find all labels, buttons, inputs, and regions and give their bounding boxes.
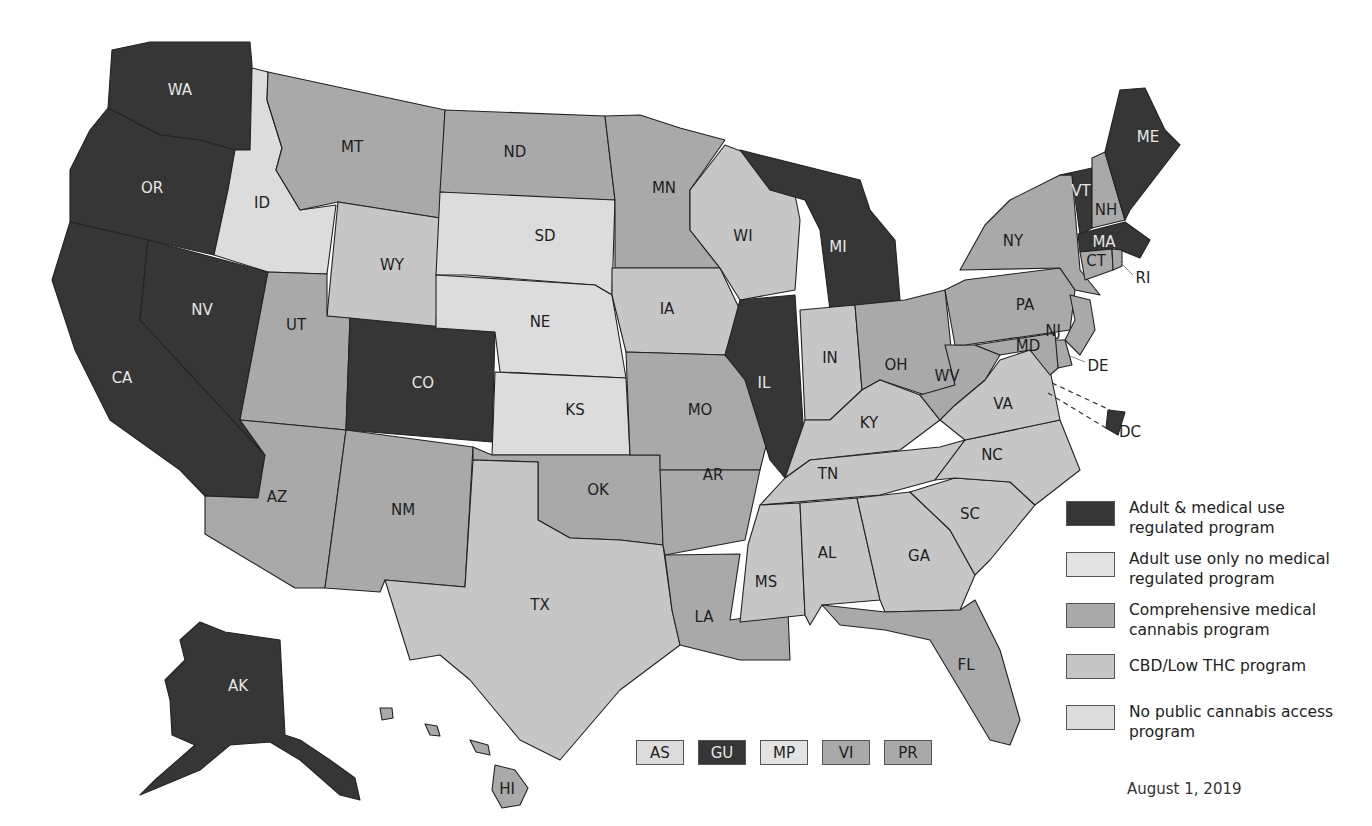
state-label-AR: AR: [703, 466, 724, 484]
legend-label: CBD/Low THC program: [1129, 651, 1339, 681]
legend-label: Adult & medical use regulated program: [1129, 498, 1339, 538]
territory-label: AS: [650, 744, 670, 762]
state-label-MS: MS: [755, 573, 777, 591]
hi-island: [425, 724, 440, 736]
legend-swatch: [1066, 654, 1115, 679]
legend-item-adult-medical: Adult & medical use regulated program: [1066, 498, 1366, 542]
state-KS[interactable]: [492, 372, 630, 455]
legend: Adult & medical use regulated program Ad…: [1066, 498, 1366, 753]
state-label-MO: MO: [688, 401, 713, 419]
territory-VI[interactable]: VI: [822, 740, 870, 765]
state-label-AZ: AZ: [267, 488, 288, 506]
dc-callout-line: [1052, 383, 1110, 410]
hi-island: [470, 740, 490, 755]
state-label-NE: NE: [530, 313, 551, 331]
state-RI[interactable]: [1112, 249, 1122, 270]
state-FL[interactable]: [822, 600, 1020, 745]
territory-PR[interactable]: PR: [884, 740, 932, 765]
state-label-IL: IL: [758, 374, 771, 392]
state-label-WA: WA: [168, 81, 193, 99]
territory-GU[interactable]: GU: [698, 740, 746, 765]
state-label-ID: ID: [254, 194, 270, 212]
territory-label: VI: [839, 744, 854, 762]
state-label-HI: HI: [499, 780, 515, 798]
state-label-NV: NV: [191, 301, 213, 319]
legend-item-comprehensive-medical: Comprehensive medical cannabis program: [1066, 600, 1366, 644]
legend-label: Comprehensive medical cannabis program: [1129, 600, 1339, 640]
state-label-VA: VA: [993, 395, 1013, 413]
state-label-ME: ME: [1137, 128, 1159, 146]
state-label-KY: KY: [860, 414, 879, 432]
state-label-MT: MT: [341, 138, 364, 156]
state-label-PA: PA: [1016, 296, 1035, 314]
de-callout-line: [1070, 356, 1085, 362]
state-label-UT: UT: [286, 316, 307, 334]
state-label-NM: NM: [391, 501, 415, 519]
state-label-SC: SC: [960, 505, 980, 523]
state-label-AK: AK: [228, 677, 249, 695]
state-label-ND: ND: [504, 143, 527, 161]
legend-item-adult-only: Adult use only no medical regulated prog…: [1066, 549, 1366, 593]
state-label-NC: NC: [981, 446, 1003, 464]
state-label-WI: WI: [733, 227, 752, 245]
territory-label: PR: [898, 744, 917, 762]
legend-swatch: [1066, 705, 1115, 730]
state-label-MI: MI: [829, 238, 846, 256]
territory-boxes: AS GU MP VI PR: [636, 740, 932, 765]
state-label-CA: CA: [112, 369, 133, 387]
state-label-MA: MA: [1092, 233, 1116, 251]
legend-swatch: [1066, 603, 1115, 628]
legend-swatch: [1066, 501, 1115, 526]
state-label-KS: KS: [565, 401, 584, 419]
map-date: August 1, 2019: [1127, 780, 1242, 798]
state-label-OK: OK: [587, 481, 610, 499]
territory-AS[interactable]: AS: [636, 740, 684, 765]
state-label-WY: WY: [380, 256, 405, 274]
state-label-TX: TX: [529, 596, 549, 614]
state-label-TN: TN: [817, 465, 838, 483]
state-label-IA: IA: [660, 300, 675, 318]
legend-label: No public cannabis access program: [1129, 702, 1339, 742]
state-label-NJ: NJ: [1045, 322, 1061, 340]
state-label-CT: CT: [1086, 252, 1106, 270]
state-ND[interactable]: [440, 110, 615, 200]
state-label-VT: VT: [1071, 182, 1091, 200]
legend-swatch: [1066, 552, 1115, 577]
state-label-GA: GA: [908, 547, 931, 565]
state-label-MD: MD: [1016, 337, 1041, 355]
state-label-OH: OH: [884, 356, 907, 374]
legend-label: Adult use only no medical regulated prog…: [1129, 549, 1339, 589]
state-label-NH: NH: [1095, 201, 1118, 219]
state-label-LA: LA: [695, 608, 715, 626]
state-label-AL: AL: [818, 544, 837, 562]
territory-MP[interactable]: MP: [760, 740, 808, 765]
state-label-IN: IN: [822, 349, 838, 367]
state-label-DC: DC: [1119, 423, 1141, 441]
state-MS[interactable]: [740, 503, 805, 622]
hi-island: [380, 708, 393, 720]
state-label-OR: OR: [141, 179, 163, 197]
state-label-CO: CO: [412, 374, 434, 392]
state-IA[interactable]: [612, 268, 740, 355]
state-label-NY: NY: [1003, 232, 1024, 250]
state-label-RI: RI: [1136, 269, 1151, 287]
state-label-DE: DE: [1087, 357, 1108, 375]
state-label-WV: WV: [934, 367, 960, 385]
state-AK[interactable]: [140, 622, 360, 800]
state-label-FL: FL: [958, 656, 976, 674]
legend-item-no-program: No public cannabis access program: [1066, 702, 1366, 746]
territory-label: GU: [711, 744, 734, 762]
state-label-SD: SD: [534, 227, 555, 245]
ri-callout-line: [1120, 262, 1133, 275]
legend-item-cbd-low-thc: CBD/Low THC program: [1066, 651, 1366, 695]
territory-label: MP: [773, 744, 795, 762]
state-label-MN: MN: [652, 179, 676, 197]
